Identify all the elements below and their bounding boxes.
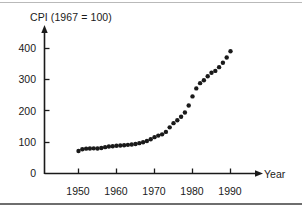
data-point <box>111 144 115 148</box>
y-axis <box>41 25 49 174</box>
data-point <box>183 110 187 114</box>
data-point <box>80 147 84 151</box>
data-point <box>171 121 175 125</box>
data-point <box>92 146 96 150</box>
data-point <box>130 142 134 146</box>
data-point <box>209 71 213 75</box>
data-point <box>145 139 149 143</box>
data-point <box>213 69 217 73</box>
data-point <box>137 141 141 145</box>
data-point <box>179 115 183 119</box>
data-point <box>202 78 206 82</box>
data-point <box>156 133 160 137</box>
data-point <box>103 145 107 149</box>
data-point <box>190 94 194 98</box>
data-point <box>84 146 88 150</box>
data-series-cpi <box>76 49 232 153</box>
data-point <box>141 140 145 144</box>
data-point <box>221 61 225 65</box>
data-point <box>217 65 221 69</box>
data-point <box>228 49 232 53</box>
data-point <box>114 144 118 148</box>
y-axis-arrowhead <box>41 25 47 33</box>
data-point <box>122 143 126 147</box>
data-point <box>198 81 202 85</box>
data-point <box>149 137 153 141</box>
data-point <box>206 74 210 78</box>
data-point <box>95 146 99 150</box>
data-point <box>76 149 80 153</box>
data-point <box>194 86 198 90</box>
data-point <box>99 146 103 150</box>
plot-area <box>0 0 302 210</box>
data-point <box>160 132 164 136</box>
data-point <box>107 144 111 148</box>
data-point <box>88 146 92 150</box>
data-point <box>225 55 229 59</box>
data-point <box>133 142 137 146</box>
data-point <box>126 143 130 147</box>
data-point <box>168 125 172 129</box>
x-axis-arrowhead <box>255 170 263 176</box>
data-point <box>164 130 168 134</box>
data-point <box>118 143 122 147</box>
chart-figure: CPI (1967 = 100) Year 400 300 200 100 0 … <box>0 0 302 210</box>
data-point <box>152 135 156 139</box>
data-point <box>175 118 179 122</box>
data-point <box>187 103 191 107</box>
x-axis <box>45 169 264 177</box>
